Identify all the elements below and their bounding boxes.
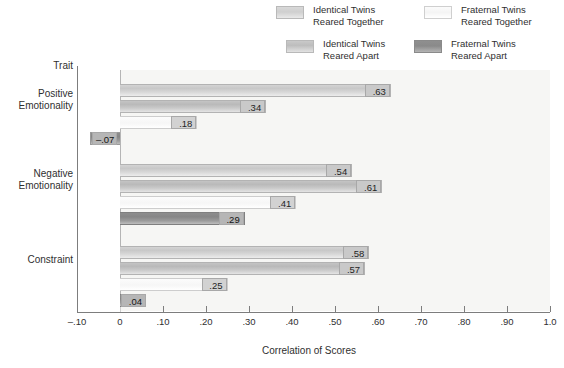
x-axis-tick [421, 306, 422, 312]
x-axis-tick-label: .70 [414, 316, 427, 327]
x-axis-tick [249, 306, 250, 312]
x-axis-tick-label: 0 [117, 316, 122, 327]
x-axis-tick-label: .50 [328, 316, 341, 327]
x-axis-tick [464, 306, 465, 312]
x-axis-tick-label: .90 [500, 316, 513, 327]
x-axis-tick-label: .40 [285, 316, 298, 327]
bar-value-label: .34 [240, 100, 265, 113]
bar-value-label: .18 [171, 116, 196, 129]
x-axis-title: Correlation of Scores [0, 345, 564, 356]
bar-identical-apart [120, 262, 365, 275]
x-axis-tick-label: .30 [242, 316, 255, 327]
x-axis-tick-label: .10 [156, 316, 169, 327]
y-category-negative-emotionality: Negative Emotionality [19, 168, 73, 192]
x-axis-tick-label: –.10 [68, 316, 87, 327]
x-axis-tick [378, 306, 379, 312]
bar-value-label: .57 [339, 262, 364, 275]
bar-identical-together [120, 164, 352, 177]
bar-value-label: .04 [121, 294, 146, 307]
bar-value-label: .63 [365, 84, 390, 97]
x-axis-tick [163, 306, 164, 312]
bar-value-label: .61 [356, 180, 381, 193]
y-category-positive-emotionality: Positive Emotionality [19, 88, 73, 112]
bar-value-label: .54 [326, 164, 351, 177]
x-axis-tick [507, 306, 508, 312]
x-axis-tick-label: 1.0 [543, 316, 556, 327]
bar-identical-apart [120, 180, 382, 193]
y-category-constraint: Constraint [27, 254, 73, 266]
bar-chart: Trait Positive Emotionality Negative Emo… [0, 0, 564, 368]
bar-value-label: .29 [219, 212, 244, 225]
x-axis-line [77, 312, 550, 313]
x-axis-tick [335, 306, 336, 312]
x-axis-tick-label: .60 [371, 316, 384, 327]
bar-identical-together [120, 246, 369, 259]
bar-value-label: –.07 [92, 132, 117, 145]
x-axis-tick [550, 306, 551, 312]
y-axis-line [77, 66, 78, 313]
x-axis-tick [77, 306, 78, 312]
bar-value-label: .41 [270, 196, 295, 209]
bar-value-label: .25 [202, 278, 227, 291]
x-axis-tick-label: .80 [457, 316, 470, 327]
bar-identical-together [120, 84, 391, 97]
x-axis-tick [292, 306, 293, 312]
x-axis-tick [206, 306, 207, 312]
x-axis-tick-label: .20 [199, 316, 212, 327]
y-axis-header: Trait [53, 60, 73, 72]
bar-value-label: .58 [343, 246, 368, 259]
